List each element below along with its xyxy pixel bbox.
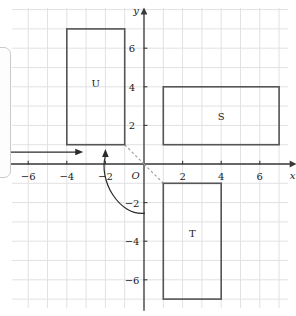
y-axis-tick-label: −2 — [125, 197, 140, 208]
x-axis-tick-label: −4 — [59, 171, 74, 182]
figure-canvas — [0, 0, 296, 316]
x-axis-tick-label: −2 — [98, 171, 113, 182]
coordinate-grid-figure: −6−4−2246642−2−4−6OxyUST — [0, 0, 296, 316]
dashed-construction-ray — [144, 164, 163, 183]
shape-label-u: U — [92, 77, 100, 88]
x-axis-tick-label: 6 — [257, 171, 263, 182]
shape-label-s: S — [218, 110, 225, 121]
dashed-construction-ray — [125, 145, 144, 164]
left-edge-panel[interactable] — [0, 47, 11, 178]
y-axis-tick-label: 4 — [129, 81, 135, 92]
rotation-arrowhead-icon — [102, 149, 109, 157]
translation-arrowhead-icon — [75, 149, 83, 156]
y-axis-tick-label: 2 — [129, 120, 135, 131]
shape-label-t: T — [189, 228, 196, 239]
y-axis-tick-label: 6 — [129, 43, 135, 54]
x-axis-tick-label: −6 — [21, 171, 36, 182]
y-axis-tick-label: −6 — [125, 274, 140, 285]
x-axis-arrowhead-icon — [290, 161, 296, 168]
y-axis-tick-label: −4 — [125, 236, 140, 247]
origin-label: O — [131, 170, 139, 181]
x-axis-label: x — [290, 170, 296, 181]
y-axis-label: y — [133, 5, 139, 16]
y-axis-arrowhead-icon — [141, 7, 148, 14]
x-axis-tick-label: 2 — [179, 171, 185, 182]
x-axis-tick-label: 4 — [218, 171, 224, 182]
